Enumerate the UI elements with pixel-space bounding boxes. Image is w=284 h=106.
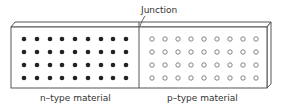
electron-dot [35, 76, 40, 81]
electron-dot [99, 37, 104, 42]
electron-dot [48, 50, 53, 55]
pn-junction-diagram: Junction n–type material p–type material [0, 0, 284, 106]
electron-dot [111, 37, 116, 42]
electron-dot [86, 63, 91, 68]
electron-dot [22, 50, 27, 55]
bar-side-face [267, 22, 271, 88]
electron-dot [60, 76, 65, 81]
electron-dot [35, 63, 40, 68]
electron-dot [60, 63, 65, 68]
electron-dot [86, 76, 91, 81]
electron-dot [99, 63, 104, 68]
electron-dot [86, 37, 91, 42]
electron-dot [35, 50, 40, 55]
electron-dot [48, 76, 53, 81]
electron-dot [35, 37, 40, 42]
electron-dot [22, 37, 27, 42]
electron-dot [22, 76, 27, 81]
electron-dot [73, 37, 78, 42]
electron-dot [111, 76, 116, 81]
electron-dot [124, 50, 129, 55]
electron-dot [48, 63, 53, 68]
electron-dot [111, 63, 116, 68]
p-type-label: p–type material [167, 93, 238, 103]
electron-dot [48, 37, 53, 42]
electron-dot [111, 50, 116, 55]
n-type-label: n–type material [40, 93, 111, 103]
electron-dot [124, 63, 129, 68]
electron-dot [99, 50, 104, 55]
electron-dot [60, 50, 65, 55]
junction-label: Junction [140, 5, 177, 15]
electron-dot [99, 76, 104, 81]
electron-dot [73, 76, 78, 81]
electron-dot [86, 50, 91, 55]
electron-dot [73, 63, 78, 68]
electron-dot [73, 50, 78, 55]
electron-dot [22, 63, 27, 68]
electron-dot [124, 37, 129, 42]
electron-dot [60, 37, 65, 42]
electron-dot [124, 76, 129, 81]
